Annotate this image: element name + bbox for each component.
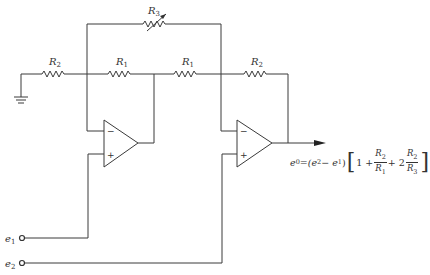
eq-one-plus: 1 +: [356, 157, 373, 168]
ground-icon: [14, 74, 42, 103]
e2-label: e2: [5, 258, 15, 271]
r3-label: R3: [147, 5, 160, 18]
r1-left-resistor: R1: [87, 56, 154, 77]
opamp1-plus: +: [107, 150, 115, 160]
eq-minus-e1: − e: [321, 157, 338, 168]
eq-equals: =: [300, 157, 308, 168]
r1-left-label: R1: [115, 56, 128, 69]
frac2-num-sub: 2: [413, 153, 417, 161]
eq-paren-e2: (e: [308, 157, 317, 168]
output-equation: e0 = (e2 − e1 ) [ 1 + R2 R1 + 2 R2 R3 ]: [290, 148, 430, 176]
opamp2-plus: +: [240, 150, 248, 160]
eq-bracket-open: [: [347, 151, 356, 173]
r2-right-label: R2: [250, 56, 263, 69]
r3-variable-resistor: R3: [87, 5, 221, 74]
r2-right-resistor: R2: [221, 56, 288, 143]
e1-terminal-icon: [20, 236, 25, 241]
eq-bracket-close: ]: [420, 151, 429, 173]
opamp1-minus: −: [107, 126, 115, 136]
r1-right-resistor: R1: [154, 56, 221, 77]
input-e1: e1: [5, 233, 88, 246]
frac1-num-sub: 2: [382, 153, 386, 161]
eq-paren-close: ): [342, 157, 346, 168]
e1-label: e1: [5, 233, 15, 246]
opamp2-minus: −: [240, 126, 248, 136]
eq-fraction-r2-r1: R2 R1: [374, 148, 387, 176]
frac1-den-sub: 1: [382, 167, 386, 175]
input-e2: e2: [5, 258, 222, 271]
opamp-1: − +: [87, 74, 154, 238]
r2-left-label: R2: [48, 56, 61, 69]
frac2-den-sub: 3: [413, 167, 417, 175]
r2-left-resistor: R2: [42, 56, 87, 77]
e2-terminal-icon: [20, 261, 25, 266]
eq-fraction-r2-r3: R2 R3: [406, 148, 419, 176]
output-arrow-icon: [314, 140, 326, 146]
r1-right-label: R1: [181, 56, 194, 69]
eq-plus-two: + 2: [388, 157, 405, 168]
